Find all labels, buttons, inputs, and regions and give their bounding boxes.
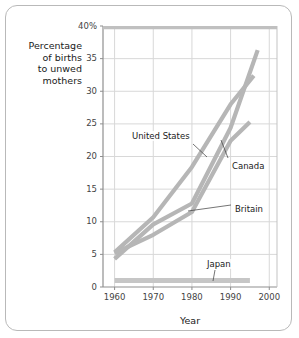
series-line-canada [115,50,258,259]
y-tick-label: 40% [71,21,97,31]
y-tick-label: 15 [71,184,97,194]
x-tick-label: 1980 [175,292,209,302]
x-tick-label: 1970 [136,292,170,302]
series-annotation-canada: Canada [231,161,265,171]
y-tick-label: 20 [71,151,97,161]
y-tick-label: 35 [71,53,97,63]
chart-figure: Percentage of births to unwed mothers Ye… [0,0,299,338]
y-tick-label: 30 [71,86,97,96]
series-annotation-japan: Japan [206,259,232,269]
x-tick-label: 1960 [98,292,132,302]
x-tick-label: 2000 [252,292,286,302]
x-tick-label: 1990 [214,292,248,302]
series-annotation-united-states: United States [131,131,191,141]
y-tick-label: 5 [71,249,97,259]
y-tick-label: 10 [71,216,97,226]
y-tick-label: 0 [71,282,97,292]
y-tick-label: 25 [71,118,97,128]
series-annotation-britain: Britain [234,204,264,214]
